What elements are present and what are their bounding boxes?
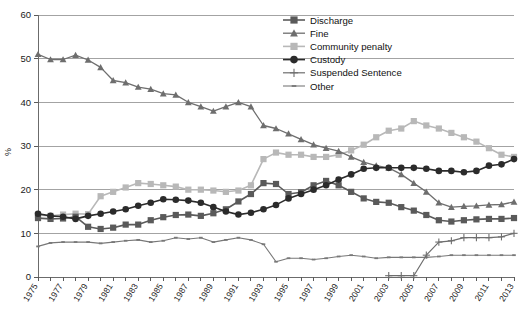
xtick-label-1989: 1989 (196, 282, 215, 304)
marker-plus (498, 233, 505, 240)
legend-item-community-penalty[interactable]: Community penalty (283, 41, 392, 52)
marker-square (498, 152, 504, 158)
legend-item-suspended-sentence[interactable]: Suspended Sentence (283, 67, 402, 78)
marker-triangle (35, 51, 42, 57)
marker-triangle (348, 154, 355, 160)
marker-square (473, 139, 479, 145)
marker-square (386, 128, 392, 134)
marker-square (135, 180, 141, 186)
marker-square (285, 152, 291, 158)
marker-circle (47, 213, 54, 220)
marker-dash (99, 242, 103, 244)
marker-square (423, 122, 429, 128)
marker-square (273, 149, 279, 155)
xtick-label-1985: 1985 (146, 282, 165, 304)
legend-label: Community penalty (310, 41, 392, 52)
marker-dash (462, 254, 466, 256)
marker-square (436, 125, 442, 131)
xtick-label-1993: 1993 (247, 282, 266, 304)
series-custody (35, 156, 518, 222)
marker-circle (360, 165, 367, 172)
series-other (36, 237, 516, 263)
xtick-label-1997: 1997 (297, 282, 316, 304)
marker-square (461, 217, 467, 223)
marker-dash (174, 237, 178, 239)
marker-square (336, 182, 342, 188)
marker-circle (198, 199, 205, 206)
marker-circle (223, 208, 230, 215)
marker-dash (124, 240, 128, 242)
marker-square (98, 226, 104, 232)
marker-square (348, 189, 354, 195)
marker-circle (260, 206, 267, 213)
xtick-label-2009: 2009 (447, 282, 466, 304)
marker-dash (74, 241, 78, 243)
marker-square (310, 154, 316, 160)
marker-square (373, 134, 379, 140)
marker-dash (292, 85, 297, 87)
marker-square (185, 211, 191, 217)
marker-triangle (310, 141, 317, 147)
marker-dash (262, 243, 266, 245)
marker-circle (323, 182, 330, 189)
marker-dash (36, 246, 40, 248)
marker-dash (299, 257, 303, 259)
marker-plus (460, 234, 467, 241)
legend-item-fine[interactable]: Fine (283, 28, 329, 39)
ytick-label-50: 50 (20, 53, 31, 64)
marker-dash (199, 237, 203, 239)
xtick-label-1987: 1987 (171, 282, 190, 304)
marker-dash (374, 257, 378, 259)
marker-circle (385, 165, 392, 172)
marker-square (473, 216, 479, 222)
marker-dash (86, 241, 90, 243)
ytick-label-10: 10 (20, 228, 31, 239)
legend-item-discharge[interactable]: Discharge (283, 15, 353, 26)
marker-circle (511, 156, 518, 163)
marker-circle (436, 168, 443, 175)
marker-square (123, 184, 129, 190)
marker-circle (35, 210, 42, 217)
marker-square (210, 187, 216, 193)
marker-circle (97, 210, 104, 217)
marker-square (160, 182, 166, 188)
marker-square (461, 134, 467, 140)
xaxis-group: 1975197719791981198319851987198919911993… (21, 277, 516, 303)
marker-circle (248, 210, 255, 217)
xtick-label-2003: 2003 (372, 282, 391, 304)
marker-dash (49, 242, 53, 244)
marker-dash (237, 237, 241, 239)
marker-plus (385, 272, 392, 279)
marker-square (198, 213, 204, 219)
marker-square (198, 187, 204, 193)
marker-square (411, 118, 417, 124)
xtick-label-1991: 1991 (222, 282, 241, 304)
marker-square (361, 142, 367, 148)
marker-square (185, 187, 191, 193)
marker-dash (500, 254, 504, 256)
xtick-label-1995: 1995 (272, 282, 291, 304)
xtick-label-2001: 2001 (347, 282, 366, 304)
ytick-label-30: 30 (20, 140, 31, 151)
marker-dash (249, 239, 253, 241)
marker-square (260, 180, 266, 186)
marker-circle (348, 171, 355, 178)
marker-triangle (511, 198, 518, 204)
marker-circle (147, 199, 154, 206)
marker-circle (498, 161, 505, 168)
legend-label: Other (310, 81, 335, 92)
legend-item-custody[interactable]: Custody (283, 54, 345, 65)
marker-circle (335, 176, 342, 183)
marker-circle (423, 165, 430, 172)
legend-item-other[interactable]: Other (283, 81, 335, 92)
marker-dash (324, 257, 328, 259)
marker-dash (161, 240, 165, 242)
marker-dash (149, 241, 153, 243)
marker-square (98, 193, 104, 199)
ytick-label-20: 20 (20, 184, 31, 195)
marker-square (223, 189, 229, 195)
marker-dash (450, 254, 454, 256)
line-chart: 0102030405060%19751977197919811983198519… (0, 0, 525, 312)
marker-square (398, 204, 404, 210)
marker-dash (274, 261, 278, 263)
